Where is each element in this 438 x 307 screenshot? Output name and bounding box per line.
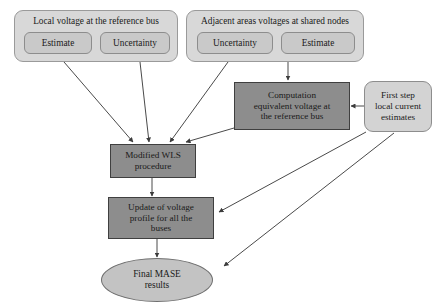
edge-adjacent-uncertainty-to-wls bbox=[170, 62, 228, 142]
adjacent-estimate-label: Estimate bbox=[302, 38, 335, 49]
final-mase-results-ellipse[interactable]: Final MASE results bbox=[101, 258, 213, 302]
local-estimate-label: Estimate bbox=[42, 38, 75, 49]
first-step-local-current-estimates-box[interactable]: First step local current estimates bbox=[364, 81, 432, 132]
update-line-3: buses bbox=[151, 223, 171, 234]
local-voltage-group: Local voltage at the reference bus Estim… bbox=[14, 10, 178, 62]
final-mase-line-2: results bbox=[145, 280, 169, 291]
final-mase-line-1: Final MASE bbox=[133, 269, 181, 280]
computation-line-1: Computation bbox=[268, 90, 316, 101]
local-uncertainty-label: Uncertainty bbox=[113, 38, 157, 49]
adjacent-estimate-box[interactable]: Estimate bbox=[281, 32, 355, 54]
adjacent-areas-group-title: Adjacent areas voltages at shared nodes bbox=[187, 16, 363, 27]
edge-firststep-to-update bbox=[219, 132, 366, 212]
adjacent-uncertainty-label: Uncertainty bbox=[213, 38, 257, 49]
edge-computation-to-wls bbox=[186, 128, 234, 142]
adjacent-uncertainty-box[interactable]: Uncertainty bbox=[197, 32, 273, 54]
first-step-line-3: estimates bbox=[381, 112, 415, 123]
computation-line-3: the reference bus bbox=[261, 111, 324, 122]
modified-wls-line-1: Modified WLS bbox=[125, 150, 181, 161]
update-line-1: Update of voltage bbox=[128, 202, 194, 213]
adjacent-areas-group: Adjacent areas voltages at shared nodes … bbox=[186, 10, 364, 62]
update-line-2: profile for all the bbox=[130, 213, 193, 224]
local-estimate-box[interactable]: Estimate bbox=[24, 32, 92, 54]
computation-equivalent-voltage-box[interactable]: Computation equivalent voltage at the re… bbox=[234, 82, 350, 130]
local-uncertainty-box[interactable]: Uncertainty bbox=[100, 32, 170, 54]
local-voltage-group-title: Local voltage at the reference bus bbox=[15, 16, 177, 27]
edge-local-estimate-to-wls bbox=[64, 62, 133, 142]
update-voltage-profile-box[interactable]: Update of voltage profile for all the bu… bbox=[108, 197, 214, 239]
flowchart-diagram: Local voltage at the reference bus Estim… bbox=[0, 0, 438, 307]
edge-firststep-to-final bbox=[224, 133, 394, 266]
computation-line-2: equivalent voltage at bbox=[254, 101, 331, 112]
first-step-line-2: local current bbox=[375, 101, 421, 112]
first-step-line-1: First step bbox=[381, 90, 415, 101]
modified-wls-procedure-box[interactable]: Modified WLS procedure bbox=[110, 144, 196, 178]
edge-local-uncertainty-to-wls bbox=[140, 62, 149, 142]
modified-wls-line-2: procedure bbox=[135, 161, 172, 172]
